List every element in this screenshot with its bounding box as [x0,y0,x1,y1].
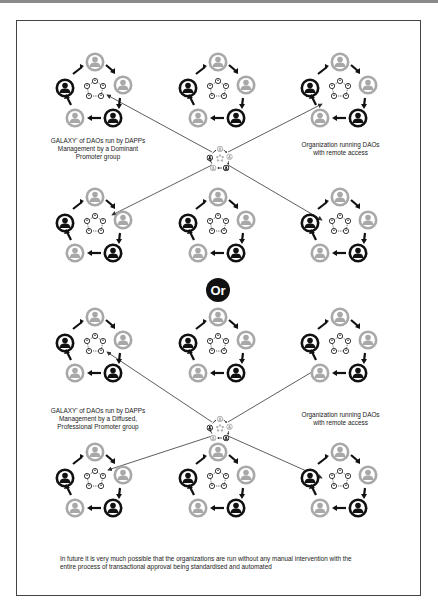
dao-cluster [57,309,131,381]
dao-network-diagram: Or [0,0,438,608]
label-line: Management by a Diffused, [38,415,158,423]
label-diffused-promoter-galaxy: GALAXY' of DAOs run by DAPPs Management … [38,407,158,431]
label-line: Promoter group [38,153,158,161]
footer-caption: In future it is very much possible that … [60,555,380,571]
label-line: GALAXY' of DAOs run by DAPPs [38,407,158,415]
label-line: Professional Promoter group [38,423,158,431]
dao-cluster [302,54,376,126]
label-line: GALAXY' of DAOs run by DAPPs [38,137,158,145]
dao-cluster [180,309,254,381]
dao-cluster [57,54,131,126]
hub-cluster [207,146,232,171]
dao-cluster [302,189,376,261]
dao-cluster [180,189,254,261]
dao-cluster [57,444,131,516]
dao-cluster [57,189,131,261]
label-line: with remote access [283,149,398,157]
or-separator: Or [206,278,230,302]
hub-cluster [207,416,232,441]
label-remote-access-bottom: Organization running DAOs with remote ac… [283,411,398,427]
label-dominant-promoter-galaxy: GALAXY' of DAOs run by DAPPs Management … [38,137,158,161]
label-line: with remote access [283,419,398,427]
label-line: Organization running DAOs [283,141,398,149]
footer-line: In future it is very much possible that … [60,555,380,563]
label-line: Management by a Dominant [38,145,158,153]
label-remote-access-top: Organization running DAOs with remote ac… [283,141,398,157]
dao-cluster [180,444,254,516]
dao-cluster [180,54,254,126]
or-label: Or [210,283,225,298]
dao-cluster [302,309,376,381]
label-line: Organization running DAOs [283,411,398,419]
dao-cluster [302,444,376,516]
footer-line: entire process of transactional approval… [60,563,380,571]
